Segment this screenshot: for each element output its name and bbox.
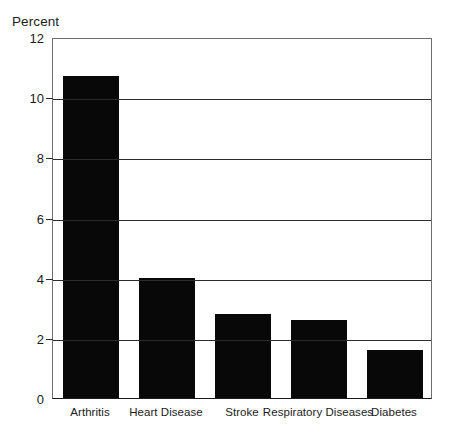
y-axis-tick-mark — [46, 339, 53, 340]
y-axis-tick-label: 8 — [37, 151, 44, 166]
y-axis-tick-mark — [46, 158, 53, 159]
x-axis-tick-label: Arthritis — [70, 406, 109, 418]
y-axis-tick-mark — [46, 279, 53, 280]
plot-area — [52, 38, 432, 399]
gridline — [53, 99, 431, 100]
x-axis-tick-label: Respiratory Diseases — [263, 406, 373, 418]
bar — [63, 76, 119, 398]
y-axis-tick-label: 6 — [37, 211, 44, 226]
y-axis-tick-label: 2 — [37, 331, 44, 346]
y-axis-tick-label: 4 — [37, 271, 44, 286]
bar-chart: Percent 024681012 ArthritisHeart Disease… — [0, 0, 451, 439]
bar — [291, 320, 347, 398]
gridline — [53, 159, 431, 160]
y-axis-tick-label: 10 — [30, 91, 44, 106]
bar — [367, 350, 423, 398]
y-axis-tick-mark — [46, 98, 53, 99]
y-axis-tick-label: 12 — [30, 31, 44, 46]
x-axis-tick-label: Stroke — [225, 406, 259, 418]
x-axis-tick-label: Diabetes — [371, 406, 417, 418]
bar — [215, 314, 271, 398]
gridline — [53, 340, 431, 341]
gridline — [53, 220, 431, 221]
x-axis-tick-label: Heart Disease — [129, 406, 203, 418]
y-axis-tick-labels: 024681012 — [0, 0, 44, 439]
y-axis-tick-mark — [46, 219, 53, 220]
bar — [139, 278, 195, 398]
bars-layer — [53, 39, 431, 398]
gridline — [53, 280, 431, 281]
y-axis-tick-label: 0 — [37, 392, 44, 407]
